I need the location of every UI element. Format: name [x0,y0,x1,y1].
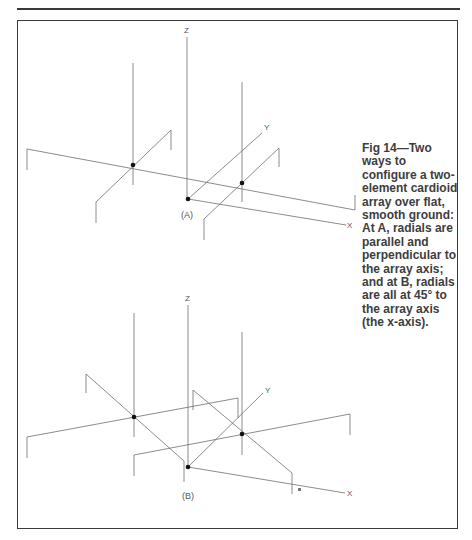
panel-b-z-label: Z [185,294,190,303]
panel-b-marker [298,488,301,491]
panel-a-x-label: X [347,221,353,230]
figure-caption: Fig 14—Two ways to configure a two-eleme… [362,142,458,330]
panel-b-x-axis [188,467,345,493]
panel-b-label: (B) [182,491,194,501]
panel-a-y-label: Y [264,123,270,132]
panel-b-y-label: Y [265,386,271,395]
panel-a-array-radial [27,149,355,210]
panel-a-y-axis [188,133,262,199]
panel-a-origin [186,197,191,202]
panel-b-x-label: X [347,489,353,498]
panel-b-right-feedpoint [240,432,245,437]
panel-a-right-feedpoint [240,181,245,186]
panel-b-left-feedpoint [132,415,137,420]
panel-a-left-feedpoint [131,163,136,168]
panel-b-origin [186,465,191,470]
panel-b-y-axis [188,393,263,467]
panel-a-z-label: Z [184,26,189,35]
panel-b-right-radial-2 [193,390,292,473]
panel-a-label: (A) [181,210,193,220]
panel-a-feedpoints [131,163,245,202]
